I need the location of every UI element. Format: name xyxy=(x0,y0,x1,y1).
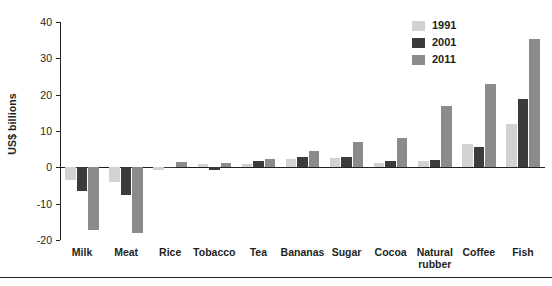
bar xyxy=(77,167,88,191)
y-tick-mark xyxy=(56,240,60,241)
legend-label: 2001 xyxy=(432,37,456,48)
bar xyxy=(529,39,540,167)
bar xyxy=(209,167,220,170)
legend-item: 2001 xyxy=(412,35,456,50)
legend-label: 2011 xyxy=(432,54,456,65)
y-tick-label: 30 xyxy=(24,53,52,64)
bar-chart: US$ billions 403020100-10-20 MilkMeatRic… xyxy=(0,0,552,286)
legend-swatch-icon xyxy=(412,38,425,48)
bar xyxy=(441,106,452,168)
bar xyxy=(65,167,76,180)
bar xyxy=(518,99,529,167)
bar xyxy=(88,167,99,229)
bar xyxy=(397,138,408,167)
legend-swatch-icon xyxy=(412,21,425,31)
legend-swatch-icon xyxy=(412,55,425,65)
bar xyxy=(121,167,132,194)
bar xyxy=(165,167,176,168)
legend: 199120012011 xyxy=(412,18,456,69)
bar xyxy=(474,147,485,167)
bar xyxy=(462,144,473,167)
bar xyxy=(265,159,276,167)
footer-rule xyxy=(0,277,552,278)
bar xyxy=(286,159,297,167)
bar xyxy=(242,164,253,167)
bar xyxy=(430,160,441,167)
bar xyxy=(198,164,209,167)
bar xyxy=(132,167,143,232)
y-tick-label: 0 xyxy=(24,162,52,173)
bar xyxy=(297,157,308,167)
bar xyxy=(253,161,264,167)
y-tick-label: -10 xyxy=(24,199,52,210)
y-tick-label: 20 xyxy=(24,90,52,101)
bar xyxy=(506,124,517,168)
y-axis-title: US$ billions xyxy=(6,64,18,184)
bar xyxy=(330,158,341,167)
bar xyxy=(485,84,496,168)
legend-item: 2011 xyxy=(412,52,456,67)
y-tick-label: 10 xyxy=(24,126,52,137)
bar xyxy=(385,161,396,167)
category-label: Fish xyxy=(495,247,551,259)
bar xyxy=(353,142,364,167)
bar xyxy=(176,162,187,167)
bar xyxy=(109,167,120,182)
y-tick-label: 40 xyxy=(24,17,52,28)
bar xyxy=(374,163,385,168)
legend-item: 1991 xyxy=(412,18,456,33)
bar xyxy=(341,157,352,168)
bar xyxy=(309,151,320,167)
y-axis-line xyxy=(60,22,61,240)
legend-label: 1991 xyxy=(432,20,456,31)
bar xyxy=(221,163,232,168)
y-tick-label: -20 xyxy=(24,235,52,246)
bar xyxy=(418,161,429,168)
bar xyxy=(153,167,164,169)
